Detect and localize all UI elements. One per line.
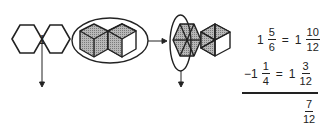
numerator: 10 (306, 26, 320, 40)
denominator: 6 (269, 40, 275, 53)
whole-number: 1 (295, 33, 302, 47)
numerator: 3 (302, 60, 310, 74)
numerator: 7 (305, 98, 313, 112)
equation-line-2: −1 1 4 = 1 3 12 (244, 60, 312, 87)
right-arrow-icon (148, 39, 167, 44)
whole-number: −1 (244, 67, 258, 81)
equals-sign: = (282, 33, 289, 47)
whole-number: 1 (257, 33, 264, 47)
cube-hexagon-left (80, 24, 108, 57)
equation-line-1: 1 5 6 = 1 10 12 (257, 26, 320, 53)
cube-hexagon-right (108, 24, 136, 57)
equals-sign: = (276, 67, 283, 81)
denominator: 12 (300, 74, 312, 87)
twelfths-hexagon-left (173, 24, 201, 56)
denominator: 12 (303, 112, 315, 125)
fraction: 7 12 (303, 98, 315, 125)
result-line: 7 12 (303, 98, 315, 125)
fraction: 10 12 (306, 26, 320, 53)
whole-number: 1 (289, 67, 296, 81)
denominator: 12 (307, 40, 319, 53)
fraction: 5 6 (268, 26, 276, 53)
down-arrow-icon (179, 71, 184, 87)
fraction: 1 4 (262, 60, 270, 87)
subtraction-rule (242, 92, 318, 94)
numerator: 1 (262, 60, 270, 74)
numerator: 5 (268, 26, 276, 40)
twelfths-hexagon-right (201, 24, 230, 56)
fraction: 3 12 (300, 60, 312, 87)
denominator: 4 (263, 74, 269, 87)
